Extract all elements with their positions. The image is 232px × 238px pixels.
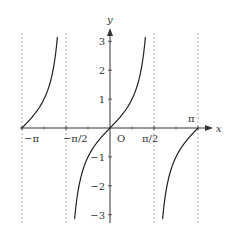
y-tick-label: 1 (99, 94, 105, 105)
x-tick-label: π/2 (142, 133, 158, 144)
x-tick-label: −π/2 (63, 133, 88, 144)
x-tick-label: π (188, 113, 195, 124)
x-axis-label: x (216, 123, 222, 134)
y-tick-label: −1 (90, 152, 105, 163)
x-axis-arrow-icon (205, 125, 213, 131)
tan-branch (22, 37, 57, 128)
y-tick-label: −2 (90, 181, 105, 192)
y-tick-label: −3 (90, 210, 105, 221)
tan-branch (163, 128, 198, 219)
x-tick-label: −π (24, 133, 39, 144)
axes (20, 28, 213, 223)
y-tick-label: 3 (99, 36, 105, 47)
y-axis-arrow-icon (107, 28, 113, 36)
tan-graph: x y O −π−π/2π/2π321−1−2−3 (0, 0, 232, 238)
y-tick-label: 2 (99, 65, 105, 76)
y-axis-label: y (106, 14, 113, 25)
origin-label: O (117, 133, 125, 144)
